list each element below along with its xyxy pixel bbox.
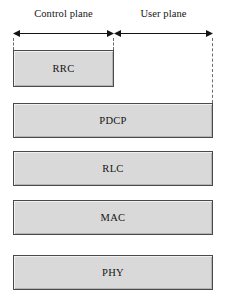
- protocol-stack-diagram: Control plane User plane RRC PDCP RLC MA…: [0, 0, 228, 307]
- plane-label-control: Control plane: [13, 8, 114, 20]
- control-plane-span-arrow: [13, 29, 114, 38]
- layer-box-phy: PHY: [13, 255, 213, 290]
- layer-label-rlc: RLC: [102, 163, 123, 175]
- layer-label-pdcp: PDCP: [99, 115, 126, 127]
- user-plane-span-arrow: [114, 29, 213, 38]
- layer-label-mac: MAC: [101, 212, 126, 224]
- boundary-guide-right: [212, 38, 213, 103]
- layer-box-pdcp: PDCP: [13, 103, 213, 138]
- layer-box-rrc: RRC: [13, 50, 114, 87]
- plane-label-user: User plane: [114, 8, 213, 20]
- layer-label-phy: PHY: [102, 267, 124, 279]
- layer-box-rlc: RLC: [13, 151, 213, 186]
- boundary-guide-left: [13, 38, 14, 50]
- boundary-guide-plane-split: [113, 38, 114, 50]
- layer-box-mac: MAC: [13, 200, 213, 235]
- layer-label-rrc: RRC: [53, 63, 75, 75]
